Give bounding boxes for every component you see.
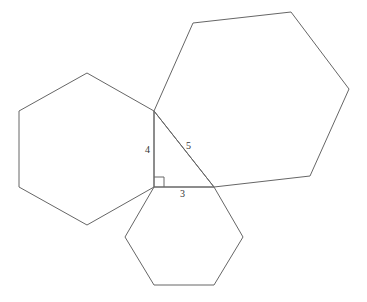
- pythagorean-hexagon-diagram: 4 5 3: [0, 0, 367, 302]
- right-triangle: [154, 111, 214, 187]
- label-vertical-side: 4: [145, 144, 150, 155]
- label-horizontal-side: 3: [180, 188, 185, 199]
- label-hypotenuse: 5: [186, 140, 191, 151]
- large-hexagon: [154, 12, 349, 187]
- bottom-hexagon: [125, 187, 243, 285]
- left-hexagon: [19, 73, 154, 225]
- right-angle-marker: [154, 177, 164, 187]
